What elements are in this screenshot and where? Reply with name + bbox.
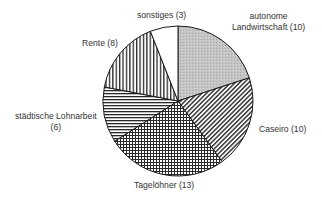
label-line: Landwirtschaft (10): [232, 22, 305, 33]
label-staedtische-lohnarbeit: städtische Lohnarbeit (6): [15, 111, 97, 133]
label-line: städtische Lohnarbeit: [15, 111, 97, 122]
label-autonome-landwirtschaft: autonome Landwirtschaft (10): [232, 11, 305, 33]
label-caseiro: Caseiro (10): [259, 124, 306, 135]
label-line: autonome: [232, 11, 305, 22]
label-tageloehner: Tagelöhner (13): [134, 180, 194, 191]
label-sonstiges: sonstiges (3): [137, 10, 186, 21]
pie-slices: [103, 26, 253, 176]
label-rente: Rente (8): [82, 38, 118, 49]
label-line: (6): [15, 122, 97, 133]
